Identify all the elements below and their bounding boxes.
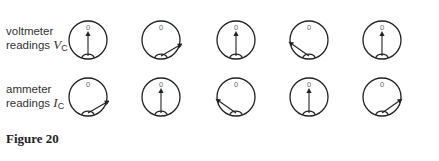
ammeter-dial-4: 0 xyxy=(288,76,330,118)
svg-text:0: 0 xyxy=(159,23,163,32)
figure-caption: Figure 20 xyxy=(6,131,59,147)
ammeter-symbol: IC xyxy=(53,95,64,110)
meter-dial-icon: 0 xyxy=(288,19,330,61)
voltmeter-dial-4: 0 xyxy=(288,19,330,61)
ammeter-label-line2: readings xyxy=(6,97,50,109)
meter-dial-icon: 0 xyxy=(215,19,257,61)
meter-dial-icon: 0 xyxy=(140,76,182,118)
ammeter-label-line2-wrap: readings IC xyxy=(6,96,64,113)
svg-text:0: 0 xyxy=(159,80,163,89)
meter-dial-icon: 0 xyxy=(215,76,257,118)
ammeter-dial-2: 0 xyxy=(140,76,182,118)
meter-dial-icon: 0 xyxy=(67,19,109,61)
voltmeter-symbol: VC xyxy=(53,37,67,52)
ammeter-dial-1: 0 xyxy=(67,76,109,118)
svg-text:0: 0 xyxy=(86,80,90,89)
svg-text:0: 0 xyxy=(307,80,311,89)
ammeter-dial-5: 0 xyxy=(361,76,403,118)
meter-dial-icon: 0 xyxy=(67,76,109,118)
ammeter-symbol-subscript: C xyxy=(58,101,65,111)
meter-dial-icon: 0 xyxy=(361,19,403,61)
voltmeter-dial-5: 0 xyxy=(361,19,403,61)
svg-text:0: 0 xyxy=(234,23,238,32)
meter-dial-icon: 0 xyxy=(288,76,330,118)
ammeter-row-label: ammeter readings IC xyxy=(6,83,64,113)
svg-text:0: 0 xyxy=(380,23,384,32)
svg-text:0: 0 xyxy=(86,23,90,32)
svg-text:0: 0 xyxy=(380,80,384,89)
svg-text:0: 0 xyxy=(234,80,238,89)
svg-text:0: 0 xyxy=(307,23,311,32)
voltmeter-dial-2: 0 xyxy=(140,19,182,61)
ammeter-dial-3: 0 xyxy=(215,76,257,118)
meter-dial-icon: 0 xyxy=(361,76,403,118)
voltmeter-row-label: voltmeter readings VC xyxy=(6,25,68,55)
voltmeter-label-line2-wrap: readings VC xyxy=(6,38,68,55)
voltmeter-dial-3: 0 xyxy=(215,19,257,61)
meter-dial-icon: 0 xyxy=(140,19,182,61)
voltmeter-label-line2: readings xyxy=(6,39,50,51)
voltmeter-dial-1: 0 xyxy=(67,19,109,61)
